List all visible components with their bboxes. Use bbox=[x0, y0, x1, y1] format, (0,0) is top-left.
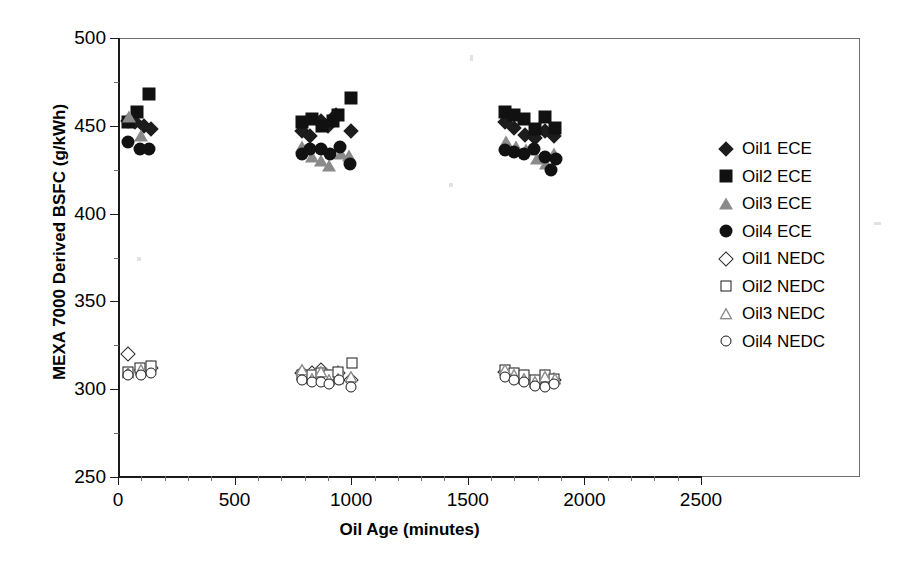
legend-marker-square-filled-icon bbox=[716, 166, 736, 186]
data-point-triangle-filled bbox=[719, 197, 733, 209]
x-axis-tick-label: 2000 bbox=[563, 489, 605, 510]
data-point-circle-open bbox=[500, 371, 511, 382]
data-point-circle-open bbox=[346, 382, 357, 393]
data-point-circle-open bbox=[297, 375, 308, 386]
legend-label: Oil4 ECE bbox=[742, 223, 812, 240]
legend-item-oil1-nedc[interactable]: Oil1 NEDC bbox=[716, 245, 856, 273]
legend-label: Oil3 ECE bbox=[742, 195, 812, 212]
chart-legend: Oil1 ECEOil2 ECEOil3 ECEOil4 ECEOil1 NED… bbox=[716, 135, 856, 355]
legend-label: Oil1 ECE bbox=[742, 140, 812, 157]
legend-label: Oil2 NEDC bbox=[742, 278, 825, 295]
legend-label: Oil3 NEDC bbox=[742, 305, 825, 322]
legend-item-oil3-nedc[interactable]: Oil3 NEDC bbox=[716, 300, 856, 328]
y-axis-minor-tick bbox=[114, 345, 119, 346]
x-axis-line bbox=[118, 476, 701, 478]
scan-artifact bbox=[470, 55, 473, 61]
legend-item-oil2-ece[interactable]: Oil2 ECE bbox=[716, 163, 856, 191]
scan-artifact bbox=[137, 257, 141, 261]
x-axis-tick-label: 1000 bbox=[330, 489, 372, 510]
data-point-circle-open bbox=[549, 378, 560, 389]
data-point-circle-open bbox=[145, 368, 156, 379]
x-axis-minor-tick bbox=[328, 476, 329, 481]
data-point-circle-open bbox=[306, 377, 317, 388]
x-axis-minor-tick bbox=[188, 476, 189, 481]
x-axis-tick bbox=[701, 476, 702, 485]
y-axis-minor-tick bbox=[114, 170, 119, 171]
x-axis-minor-tick bbox=[538, 476, 539, 481]
x-axis-tick bbox=[235, 476, 236, 485]
x-axis-minor-tick bbox=[654, 476, 655, 481]
x-axis-minor-tick bbox=[631, 476, 632, 481]
legend-item-oil4-ece[interactable]: Oil4 ECE bbox=[716, 218, 856, 246]
x-axis-minor-tick bbox=[141, 476, 142, 481]
data-point-circle-open bbox=[135, 370, 146, 381]
legend-item-oil1-ece[interactable]: Oil1 ECE bbox=[716, 135, 856, 163]
legend-item-oil3-ece[interactable]: Oil3 ECE bbox=[716, 190, 856, 218]
scatter-chart-figure: 500450400350300250 05001000150020002500 … bbox=[0, 0, 915, 580]
x-axis-minor-tick bbox=[491, 476, 492, 481]
y-axis-minor-tick bbox=[114, 433, 119, 434]
x-axis-minor-tick bbox=[258, 476, 259, 481]
x-axis-minor-tick bbox=[678, 476, 679, 481]
x-axis-tick bbox=[468, 476, 469, 485]
legend-label: Oil1 NEDC bbox=[742, 250, 825, 267]
legend-marker-square-open-icon bbox=[716, 276, 736, 296]
data-point-circle-open bbox=[315, 377, 326, 388]
x-axis-minor-tick bbox=[398, 476, 399, 481]
x-axis-minor-tick bbox=[165, 476, 166, 481]
x-axis-minor-tick bbox=[444, 476, 445, 481]
y-axis-minor-tick bbox=[114, 258, 119, 259]
data-point-square-filled bbox=[720, 170, 733, 183]
x-axis-minor-tick bbox=[514, 476, 515, 481]
legend-marker-circle-filled-icon bbox=[716, 221, 736, 241]
y-axis-tick bbox=[110, 38, 118, 39]
x-axis-minor-tick bbox=[561, 476, 562, 481]
x-axis-minor-tick bbox=[421, 476, 422, 481]
y-axis-tick bbox=[110, 126, 118, 127]
legend-marker-diamond-filled-icon bbox=[716, 139, 736, 159]
legend-item-oil4-nedc[interactable]: Oil4 NEDC bbox=[716, 328, 856, 356]
data-point-circle-open bbox=[518, 377, 529, 388]
legend-marker-triangle-open-icon bbox=[716, 304, 736, 324]
data-point-circle-open bbox=[324, 378, 335, 389]
y-axis-title: MEXA 7000 Derived BSFC (g/kWh) bbox=[50, 32, 70, 452]
legend-marker-circle-open-icon bbox=[716, 331, 736, 351]
scan-artifact bbox=[874, 222, 881, 225]
series-oil4-nedc bbox=[118, 38, 700, 477]
y-axis-tick bbox=[110, 301, 118, 302]
plot-area bbox=[118, 38, 700, 477]
x-axis-tick-label: 2500 bbox=[680, 489, 722, 510]
legend-label: Oil4 NEDC bbox=[742, 333, 825, 350]
data-point-circle-open bbox=[539, 382, 550, 393]
legend-label: Oil2 ECE bbox=[742, 168, 812, 185]
data-point-diamond-open bbox=[718, 251, 734, 267]
x-axis-tick bbox=[118, 476, 119, 485]
x-axis-minor-tick bbox=[305, 476, 306, 481]
scan-artifact bbox=[449, 183, 453, 187]
legend-marker-diamond-open-icon bbox=[716, 249, 736, 269]
x-axis-title: Oil Age (minutes) bbox=[118, 520, 701, 540]
data-point-diamond-filled bbox=[718, 141, 734, 157]
y-axis-tick bbox=[110, 214, 118, 215]
y-axis-tick bbox=[110, 477, 118, 478]
y-axis-tick-label: 250 bbox=[48, 467, 106, 486]
x-axis-minor-tick bbox=[608, 476, 609, 481]
legend-marker-triangle-filled-icon bbox=[716, 194, 736, 214]
x-axis-minor-tick bbox=[211, 476, 212, 481]
x-axis-tick bbox=[584, 476, 585, 485]
x-axis-tick-label: 1500 bbox=[447, 489, 489, 510]
data-point-square-open bbox=[721, 281, 732, 292]
data-point-circle-filled bbox=[720, 225, 733, 238]
data-point-circle-open bbox=[509, 375, 520, 386]
data-point-circle-open bbox=[721, 336, 732, 347]
x-axis-minor-tick bbox=[375, 476, 376, 481]
y-axis-tick bbox=[110, 389, 118, 390]
x-axis-minor-tick bbox=[281, 476, 282, 481]
y-axis-minor-tick bbox=[114, 82, 119, 83]
data-point-circle-open bbox=[529, 380, 540, 391]
x-axis-tick-label: 0 bbox=[113, 489, 124, 510]
data-point-circle-open bbox=[123, 370, 134, 381]
legend-item-oil2-nedc[interactable]: Oil2 NEDC bbox=[716, 273, 856, 301]
data-point-triangle-open bbox=[720, 308, 733, 320]
x-axis-tick-label: 500 bbox=[219, 489, 251, 510]
